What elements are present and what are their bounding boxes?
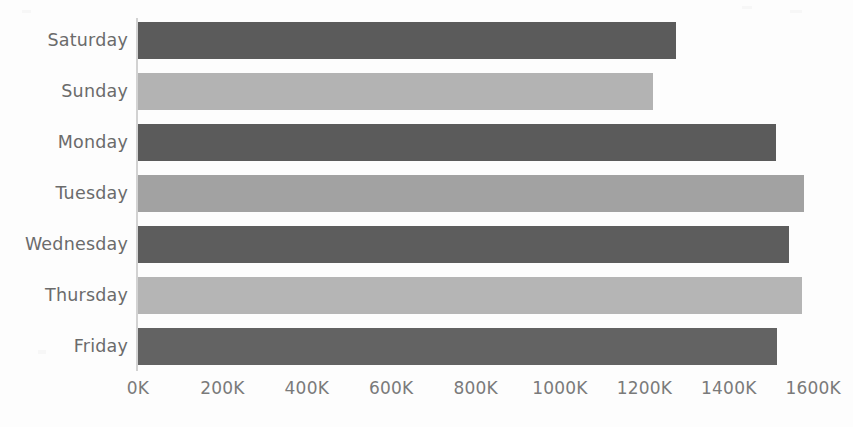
bar-row: Monday [0, 124, 853, 161]
bar-row: Thursday [0, 277, 853, 314]
category-label-friday: Friday [0, 328, 128, 365]
scan-artifact [742, 6, 752, 9]
category-label-sunday: Sunday [0, 73, 128, 110]
x-tick-label-800K: 800K [453, 378, 497, 398]
bar-row: Sunday [0, 73, 853, 110]
bar-saturday [138, 22, 676, 59]
x-tick-label-1000K: 1000K [532, 378, 587, 398]
bar-row: Saturday [0, 22, 853, 59]
category-label-wednesday: Wednesday [0, 226, 128, 263]
x-tick-label-400K: 400K [285, 378, 329, 398]
bar-monday [138, 124, 776, 161]
bar-friday [138, 328, 777, 365]
scan-artifact [22, 10, 31, 13]
category-label-saturday: Saturday [0, 22, 128, 59]
x-tick-label-200K: 200K [200, 378, 244, 398]
bar-sunday [138, 73, 653, 110]
bar-chart: SaturdaySundayMondayTuesdayWednesdayThur… [0, 0, 853, 427]
plot-area: SaturdaySundayMondayTuesdayWednesdayThur… [0, 0, 853, 427]
x-tick-label-0K: 0K [127, 378, 149, 398]
bar-row: Wednesday [0, 226, 853, 263]
bar-thursday [138, 277, 802, 314]
bar-row: Friday [0, 328, 853, 365]
scan-artifact [790, 10, 802, 13]
bar-row: Tuesday [0, 175, 853, 212]
x-tick-label-600K: 600K [369, 378, 413, 398]
x-tick-label-1600K: 1600K [785, 378, 840, 398]
category-label-monday: Monday [0, 124, 128, 161]
x-tick-label-1200K: 1200K [617, 378, 672, 398]
category-label-thursday: Thursday [0, 277, 128, 314]
category-label-tuesday: Tuesday [0, 175, 128, 212]
bar-wednesday [138, 226, 789, 263]
x-tick-label-1400K: 1400K [701, 378, 756, 398]
bar-tuesday [138, 175, 804, 212]
